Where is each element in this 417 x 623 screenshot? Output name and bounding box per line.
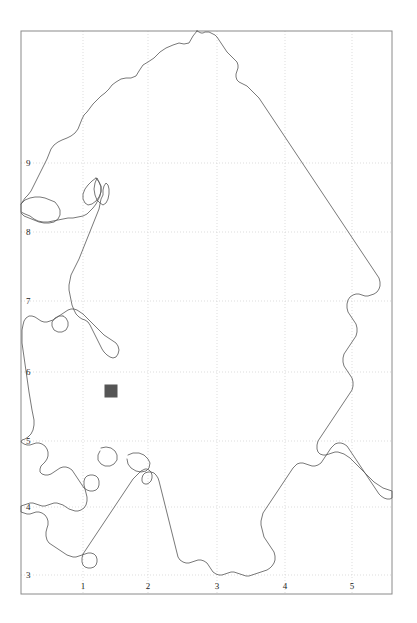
y-tick-label: 8 <box>26 227 31 237</box>
y-tick-label: 5 <box>26 436 31 446</box>
location-marker[interactable] <box>105 385 118 398</box>
x-tick-label: 3 <box>215 581 220 591</box>
map-canvas: 12345 9876543 <box>0 0 417 623</box>
y-tick-label: 7 <box>26 296 31 306</box>
y-tick-label: 4 <box>26 502 31 512</box>
x-tick-label: 4 <box>283 581 288 591</box>
y-tick-label: 3 <box>26 570 31 580</box>
map-background <box>0 0 417 623</box>
y-tick-label: 9 <box>26 158 31 168</box>
y-tick-label: 6 <box>26 367 31 377</box>
x-tick-label: 5 <box>350 581 355 591</box>
location-markers[interactable] <box>105 385 118 398</box>
x-tick-label: 2 <box>146 581 151 591</box>
map-figure: 12345 9876543 <box>0 0 417 623</box>
x-tick-label: 1 <box>81 581 86 591</box>
